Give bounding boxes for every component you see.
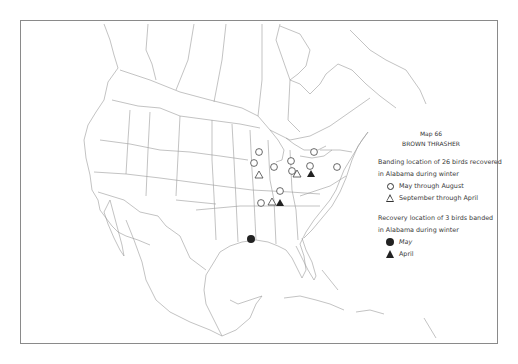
map-number: Map 66: [376, 129, 486, 139]
legend-recovery-section: Recovery location of 3 birds banded in A…: [378, 212, 513, 260]
open-circle-marker: [256, 149, 263, 156]
open-circle-marker: [271, 164, 278, 171]
florida: [296, 238, 316, 280]
open-circle-marker: [258, 200, 265, 207]
markers-layer: [247, 149, 340, 243]
filled-circle-marker: [247, 235, 255, 243]
legend-banding-section: Banding location of 26 birds recovered i…: [378, 156, 513, 204]
bahamas: [322, 270, 338, 290]
banding-heading-line2: in Alabama during winter: [378, 168, 513, 180]
open-triangle-icon: [384, 194, 396, 202]
yucatan: [222, 296, 262, 336]
filled-triangle-marker: [307, 170, 315, 177]
filled-triangle-icon: [384, 250, 396, 258]
cuba: [284, 296, 344, 310]
hispaniola: [356, 310, 384, 314]
us-mexico-border: [98, 192, 206, 270]
open-circle-marker: [289, 168, 296, 175]
legend-item-april: April: [378, 248, 513, 260]
open-circle-icon: [384, 183, 396, 190]
open-circle-marker: [277, 188, 284, 195]
mexico-pacific-coast: [126, 220, 222, 336]
hudson-bay: [280, 26, 396, 108]
open-circle-marker: [307, 163, 314, 170]
legend-item-september-april: September through April: [378, 192, 513, 204]
open-circle-marker: [288, 158, 295, 165]
recovery-heading-line1: Recovery location of 3 birds banded: [378, 212, 513, 224]
recovery-heading-line2: in Alabama during winter: [378, 224, 513, 236]
filled-triangle-marker: [276, 199, 284, 206]
lesser-antilles: [424, 318, 436, 338]
legend-item-may-august: May through August: [378, 180, 513, 192]
filled-circle-icon: [384, 238, 396, 246]
banding-heading-line1: Banding location of 26 birds recovered: [378, 156, 513, 168]
gulf-coast: [204, 132, 368, 336]
us-canada-border: [120, 70, 370, 140]
open-triangle-marker: [268, 198, 276, 205]
open-circle-marker: [251, 160, 258, 167]
open-circle-marker: [311, 149, 318, 156]
atlantic-coast: [304, 132, 368, 238]
map-species-title: BROWN THRASHER: [376, 139, 486, 149]
open-triangle-marker: [255, 171, 263, 178]
legend-item-may: May: [378, 236, 513, 248]
open-circle-marker: [334, 164, 341, 171]
